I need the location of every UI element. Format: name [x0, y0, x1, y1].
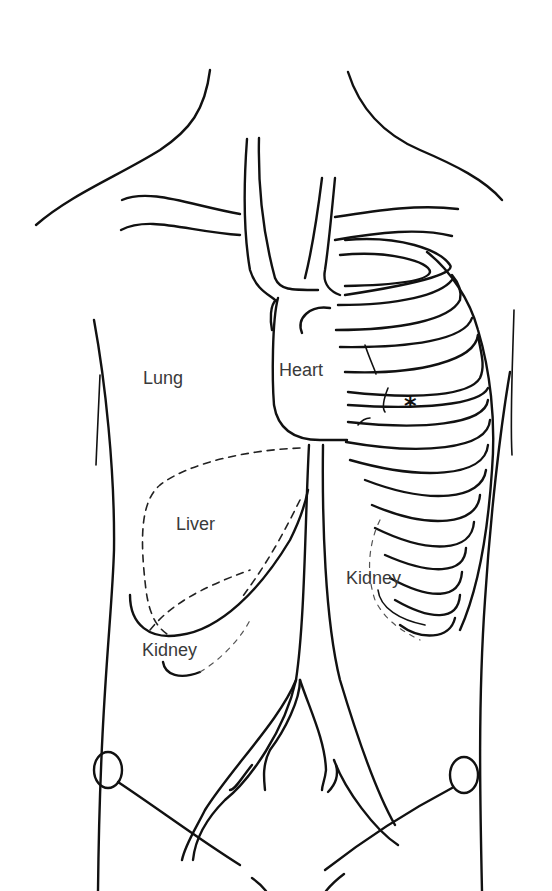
- iliac-left-outer: [334, 760, 398, 845]
- pelvis-right-line: [118, 782, 240, 865]
- liver-inner-dash: [150, 570, 250, 630]
- label-kidney-right: Kidney: [142, 641, 197, 659]
- liver-lower-edge: [130, 490, 308, 636]
- liver-outline: [143, 448, 300, 636]
- iliac-right-outer: [182, 680, 296, 860]
- vessel-right-b: [324, 178, 340, 295]
- heart-atrium-curve: [301, 308, 330, 333]
- iliac-left-inner: [300, 680, 326, 790]
- vessel-left-inner: [259, 138, 318, 290]
- clavicle-right-lower: [121, 224, 240, 235]
- asterisk-marker: *: [404, 394, 417, 418]
- torso-right-side: [94, 320, 114, 891]
- neck-right-outline: [348, 72, 502, 200]
- pelvis-bottom-right: [252, 878, 266, 891]
- pelvis-bottom-left: [326, 874, 344, 891]
- torso-left-side: [480, 372, 510, 891]
- clavicle-right-upper: [122, 196, 240, 214]
- iliac-left-branch: [328, 765, 337, 792]
- vessel-right-a: [305, 178, 322, 278]
- aorta-left-wall: [193, 445, 309, 860]
- torso-left-inner: [511, 310, 514, 455]
- iliac-right-inner: [264, 680, 300, 790]
- kidney-left-rim: [378, 590, 425, 625]
- label-kidney-left: Kidney: [346, 569, 401, 587]
- anatomy-drawing: [0, 0, 552, 891]
- label-liver: Liver: [176, 515, 215, 533]
- kidney-right-lower: [163, 662, 200, 676]
- aorta-right-wall: [323, 445, 395, 825]
- liver-inner-dash-2: [240, 500, 300, 600]
- label-heart: Heart: [279, 361, 323, 379]
- clavicle-left-upper: [335, 207, 458, 217]
- label-lung: Lung: [143, 369, 183, 387]
- hip-left: [450, 757, 478, 793]
- pelvis-left-line: [325, 788, 452, 870]
- kidney-right-faint: [200, 620, 250, 672]
- torso-right-inner: [96, 375, 100, 465]
